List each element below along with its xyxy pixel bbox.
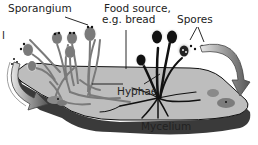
food-source-label-line2: e.g. bread (102, 14, 155, 25)
spores (11, 45, 203, 65)
cut-off-left-label: l (2, 30, 5, 41)
sporangium-label: Sporangium (8, 3, 72, 14)
hyphae-label: Hyphae (117, 86, 157, 97)
mycelium-label: Mycelium (141, 121, 191, 132)
spores-label: Spores (177, 14, 213, 25)
black-sporangia (134, 28, 192, 67)
